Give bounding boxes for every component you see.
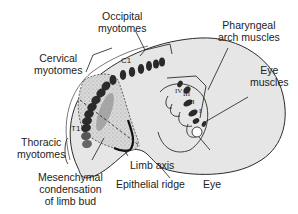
- segment-label-c1: C1: [121, 56, 131, 65]
- label-eye-muscles: Eye muscles: [250, 64, 289, 88]
- arch-numeral-ii: II: [190, 98, 195, 106]
- label-eye: Eye: [203, 178, 221, 190]
- label-line: muscles: [250, 76, 289, 88]
- eye-circle: [192, 127, 202, 137]
- label-line: of limb bud: [38, 195, 103, 207]
- segment-label-t1: T1: [71, 124, 80, 133]
- label-line: Pharyngeal: [218, 19, 280, 31]
- arch-numeral-iii: III: [183, 90, 190, 98]
- label-occipital-myotomes: Occipital myotomes: [98, 10, 146, 34]
- label-line: myotomes: [17, 148, 65, 160]
- label-epithelial-ridge: Epithelial ridge: [116, 178, 185, 190]
- arch-numeral-iv: IV: [175, 87, 182, 95]
- label-pharyngeal-arch-muscles: Pharyngeal arch muscles: [218, 19, 280, 43]
- label-line: Eye: [250, 64, 289, 76]
- label-line: Cervical: [34, 52, 82, 64]
- label-cervical-myotomes: Cervical myotomes: [34, 52, 82, 76]
- label-line: Mesenchymal: [38, 171, 103, 183]
- label-line: Thoracic: [17, 136, 65, 148]
- label-limb-axis: Limb axis: [130, 159, 174, 171]
- label-mesenchymal-condensation: Mesenchymal condensation of limb bud: [38, 171, 103, 207]
- label-line: myotomes: [98, 22, 146, 34]
- label-thoracic-myotomes: Thoracic myotomes: [17, 136, 65, 160]
- label-line: condensation: [38, 183, 103, 195]
- arch-numeral-i: I: [199, 107, 201, 115]
- label-line: myotomes: [34, 64, 82, 76]
- label-line: arch muscles: [218, 31, 280, 43]
- label-line: Occipital: [98, 10, 146, 22]
